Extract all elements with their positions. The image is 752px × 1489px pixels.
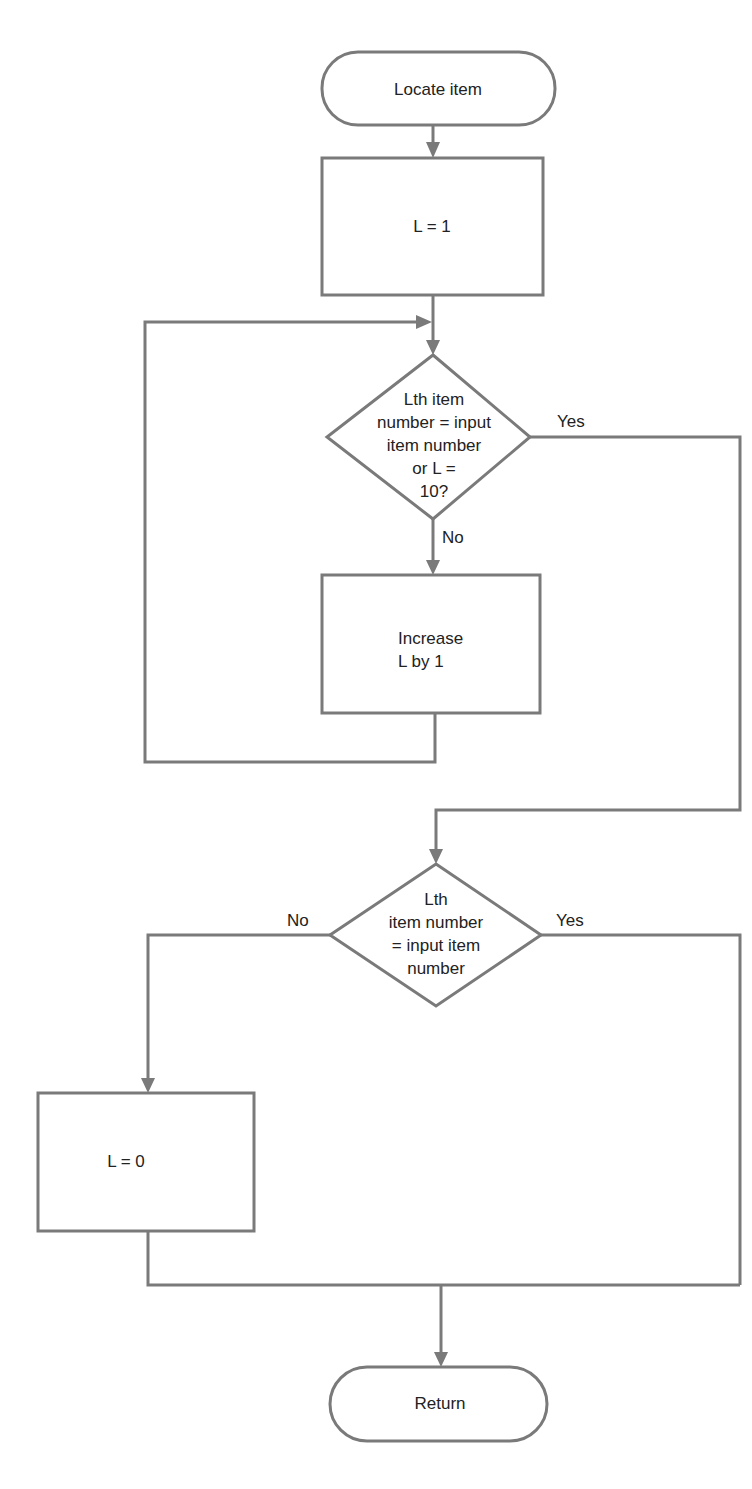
node-increment: Increase L by 1 [322, 575, 540, 713]
increment-line-2: L by 1 [398, 652, 444, 671]
decision1-line-5: 10? [420, 482, 448, 501]
decision2-line-4: number [407, 959, 465, 978]
decision2-line-2: item number [389, 913, 484, 932]
arrowhead-icon [429, 849, 443, 864]
node-notfound-label: L = 0 [107, 1152, 145, 1171]
flowchart-canvas: Locate item L = 1 Lth item number = inpu… [0, 0, 752, 1489]
arrowhead-icon [141, 1078, 155, 1093]
arrowhead-icon [426, 142, 440, 158]
decision1-line-2: number = input [377, 413, 491, 432]
edge-notfound-to-merge [148, 1231, 740, 1285]
decision2-yes-label: Yes [556, 911, 584, 930]
arrowhead-icon [434, 1352, 448, 1367]
decision1-line-4: or L = [412, 459, 455, 478]
arrowhead-icon [426, 340, 440, 355]
arrowhead-icon [416, 315, 432, 329]
decision2-no-label: No [287, 911, 309, 930]
node-start: Locate item [322, 52, 555, 125]
node-start-label: Locate item [394, 80, 482, 99]
node-end: Return [330, 1367, 547, 1441]
increment-line-1: Increase [398, 629, 463, 648]
decision1-line-3: item number [387, 436, 482, 455]
decision1-no-label: No [442, 528, 464, 547]
edge-decision2-yes [541, 935, 740, 1285]
decision2-line-3: = input item [392, 936, 480, 955]
node-init-label: L = 1 [413, 217, 451, 236]
node-decision1: Lth item number = input item number or L… [327, 355, 530, 519]
decision1-yes-label: Yes [557, 412, 585, 431]
node-init: L = 1 [322, 158, 543, 295]
edge-decision2-no [148, 935, 330, 1081]
decision1-line-1: Lth item [404, 390, 464, 409]
node-notfound: L = 0 [38, 1093, 254, 1231]
arrowhead-icon [426, 560, 440, 575]
decision2-line-1: Lth [424, 890, 448, 909]
node-decision2: Lth item number = input item number [330, 864, 541, 1006]
node-end-label: Return [414, 1394, 465, 1413]
